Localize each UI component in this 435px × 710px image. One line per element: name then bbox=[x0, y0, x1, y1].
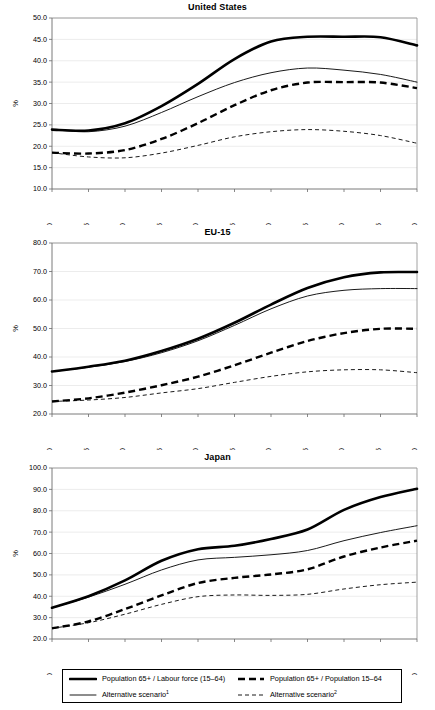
y-tick-label: 35.0 bbox=[33, 78, 47, 87]
y-tick-label: 15.0 bbox=[33, 163, 47, 172]
y-tick-label: 60.0 bbox=[33, 549, 47, 558]
legend-entry-2: Alternative scenario1 bbox=[63, 687, 231, 703]
y-tick-label: 40.0 bbox=[33, 56, 47, 65]
series-line-dash-thick bbox=[52, 82, 417, 154]
legend-swatch-solid-thin bbox=[69, 690, 97, 700]
legend-label-3: Alternative scenario2 bbox=[270, 690, 337, 700]
legend-entry-3: Alternative scenario2 bbox=[231, 687, 403, 703]
legend-label-0: Population 65+ / Labour force (15–64) bbox=[102, 674, 225, 684]
legend-swatch-solid-thick bbox=[69, 674, 97, 684]
series-line-solid-thick bbox=[52, 272, 417, 372]
y-tick-label: 10.0 bbox=[33, 184, 47, 193]
y-tick-label: 20.0 bbox=[33, 634, 47, 643]
y-tick-label: 90.0 bbox=[33, 485, 47, 494]
y-tick-label: 30.0 bbox=[33, 381, 47, 390]
x-tick-label: 2000 bbox=[45, 673, 54, 675]
series-line-solid-thin bbox=[52, 68, 417, 132]
y-tick-label: 40.0 bbox=[33, 352, 47, 361]
legend-entry-0: Population 65+ / Labour force (15–64) bbox=[63, 671, 231, 687]
series-line-solid-thick bbox=[52, 36, 417, 130]
series-line-solid-thick bbox=[52, 489, 417, 608]
y-axis-label: % bbox=[11, 325, 20, 332]
legend-swatch-dash-thin bbox=[237, 690, 265, 700]
y-tick-label: 20.0 bbox=[33, 142, 47, 151]
y-tick-label: 80.0 bbox=[33, 506, 47, 515]
y-tick-label: 40.0 bbox=[33, 592, 47, 601]
legend-entry-1: Population 65+ / Population 15–64 bbox=[231, 671, 403, 687]
series-line-solid-thin bbox=[52, 526, 417, 608]
chart-panel-eu-15: EU-15 20.030.040.050.060.070.080.0200020… bbox=[0, 225, 435, 450]
panel-title-japan: Japan bbox=[0, 450, 435, 464]
chart-svg-japan: 20.030.040.050.060.070.080.090.0100.0200… bbox=[0, 464, 435, 675]
chart-svg-united-states: 10.015.020.025.030.035.040.045.050.02000… bbox=[0, 14, 435, 225]
y-axis-label: % bbox=[11, 550, 20, 557]
y-tick-label: 70.0 bbox=[33, 528, 47, 537]
chart-svg-eu-15: 20.030.040.050.060.070.080.0200020052010… bbox=[0, 239, 435, 450]
y-tick-label: 30.0 bbox=[33, 99, 47, 108]
y-tick-label: 30.0 bbox=[33, 613, 47, 622]
y-tick-label: 50.0 bbox=[33, 324, 47, 333]
y-tick-label: 60.0 bbox=[33, 295, 47, 304]
y-tick-label: 50.0 bbox=[33, 570, 47, 579]
y-tick-label: 45.0 bbox=[33, 35, 47, 44]
series-line-dash-thin bbox=[52, 130, 417, 158]
x-tick-label: 2050 bbox=[410, 673, 419, 675]
y-tick-label: 80.0 bbox=[33, 239, 47, 247]
figure-legend: Population 65+ / Labour force (15–64) Po… bbox=[62, 669, 402, 703]
y-tick-label: 50.0 bbox=[33, 14, 47, 22]
y-tick-label: 25.0 bbox=[33, 120, 47, 129]
legend-label-1: Population 65+ / Population 15–64 bbox=[270, 674, 382, 684]
y-tick-label: 70.0 bbox=[33, 267, 47, 276]
series-line-dash-thick bbox=[52, 541, 417, 629]
y-tick-label: 20.0 bbox=[33, 409, 47, 418]
y-tick-label: 100.0 bbox=[29, 464, 47, 472]
chart-panel-japan: Japan 20.030.040.050.060.070.080.090.010… bbox=[0, 450, 435, 675]
y-axis-label: % bbox=[11, 100, 20, 107]
legend-swatch-dash-thick bbox=[237, 674, 265, 684]
chart-panel-united-states: United States 10.015.020.025.030.035.040… bbox=[0, 0, 435, 225]
panel-title-united-states: United States bbox=[0, 0, 435, 14]
panel-title-eu-15: EU-15 bbox=[0, 225, 435, 239]
legend-label-2: Alternative scenario1 bbox=[102, 690, 169, 700]
figure-root: United States 10.015.020.025.030.035.040… bbox=[0, 0, 435, 710]
legend-grid: Population 65+ / Labour force (15–64) Po… bbox=[63, 670, 401, 703]
